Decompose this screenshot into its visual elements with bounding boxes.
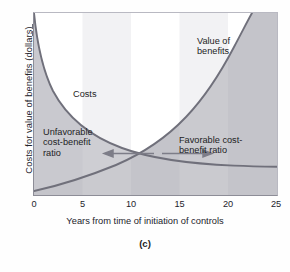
annotation-favorable-line1: Favorable cost-: [179, 135, 242, 145]
annotation-value-of-benefits-line2: benefits: [197, 46, 229, 56]
x-axis-title: Years from time of initiation of control…: [0, 216, 290, 226]
annotation-value-of-benefits-line1: Value of: [197, 36, 230, 46]
x-tick-15: 15: [174, 199, 184, 209]
chart-svg: [34, 13, 278, 196]
annotation-unfavorable-ratio: Unfavorable cost-benefit ratio: [43, 127, 93, 158]
x-tick-20: 20: [223, 199, 233, 209]
panel-letter: (c): [0, 238, 290, 249]
annotation-unfavorable-line3: ratio: [43, 148, 61, 158]
x-tick-25: 25: [271, 199, 281, 209]
annotation-favorable-ratio: Favorable cost- benefit ratio: [179, 135, 242, 156]
x-tick-10: 10: [126, 199, 136, 209]
annotation-costs: Costs: [73, 89, 97, 99]
caption-stub: [10, 263, 282, 272]
annotation-favorable-line2: benefit ratio: [179, 145, 227, 155]
annotation-unfavorable-line2: cost-benefit: [43, 137, 91, 147]
annotation-unfavorable-line1: Unfavorable: [43, 127, 93, 137]
x-tick-0: 0: [31, 199, 36, 209]
figure-panel-c: Costs for value of benefits (dollars): [0, 0, 290, 272]
plot-area: Costs Value of benefits Unfavorable cost…: [33, 12, 278, 196]
annotation-value-of-benefits: Value of benefits: [197, 36, 230, 57]
x-tick-5: 5: [80, 199, 85, 209]
